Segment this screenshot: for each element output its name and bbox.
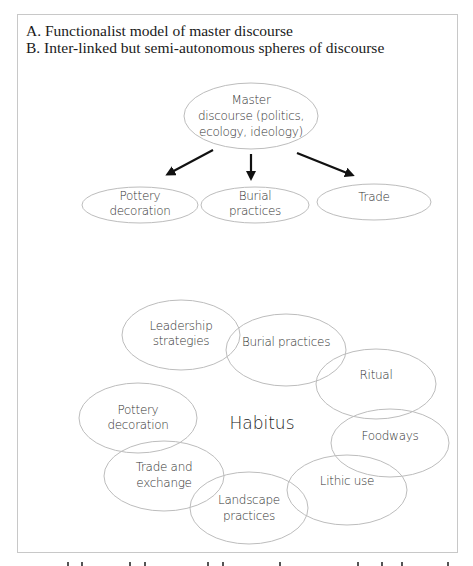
cut-off-caption xyxy=(17,562,458,566)
sphere-label: Pottery xyxy=(118,403,159,417)
sphere-ritual: Ritual xyxy=(316,349,436,419)
arrow-to-trade xyxy=(297,153,352,175)
sphere-label: exchange xyxy=(136,476,191,490)
node-pottery-decoration: Pottery decoration xyxy=(82,187,198,223)
sphere-foodways: Foodways xyxy=(331,409,449,477)
master-node-line3: ecology, ideology) xyxy=(199,125,303,139)
sphere-label: Burial practices xyxy=(242,335,330,349)
sphere-label: Leadership xyxy=(150,319,213,333)
model-a: Master discourse (politics, ecology, ide… xyxy=(82,83,431,223)
diagram-canvas: Master discourse (politics, ecology, ide… xyxy=(0,0,473,566)
sphere-label: strategies xyxy=(153,334,210,348)
sphere-landscape-practices: Landscape practices xyxy=(190,472,308,544)
sphere-label: decoration xyxy=(107,418,168,432)
node-burial-practices: Burial practices xyxy=(201,187,309,223)
sphere-label: Landscape xyxy=(218,493,280,507)
sphere-label: Lithic use xyxy=(320,474,374,488)
habitus-label: Habitus xyxy=(229,413,294,433)
node-trade: Trade xyxy=(317,184,431,220)
master-node-line2: discourse (politics, xyxy=(198,109,304,123)
sphere-label: practices xyxy=(223,509,275,523)
sphere-label: Foodways xyxy=(362,429,419,443)
master-discourse-node: Master discourse (politics, ecology, ide… xyxy=(184,83,318,149)
sphere-label: Ritual xyxy=(360,368,393,382)
node-label: Trade xyxy=(358,190,389,204)
node-label: Burial xyxy=(239,189,272,203)
node-label: Pottery xyxy=(120,189,161,203)
sphere-pottery-decoration: Pottery decoration xyxy=(79,383,197,453)
model-b: Leadership strategies Burial practices R… xyxy=(79,300,449,544)
master-node-line1: Master xyxy=(231,93,271,107)
node-label: decoration xyxy=(109,204,170,218)
sphere-lithic-use: Lithic use xyxy=(287,455,407,525)
arrow-to-pottery xyxy=(168,150,213,174)
sphere-burial-practices: Burial practices xyxy=(226,314,346,386)
node-label: practices xyxy=(229,204,281,218)
sphere-label: Trade and xyxy=(136,460,193,474)
sphere-leadership-strategies: Leadership strategies xyxy=(122,300,240,370)
